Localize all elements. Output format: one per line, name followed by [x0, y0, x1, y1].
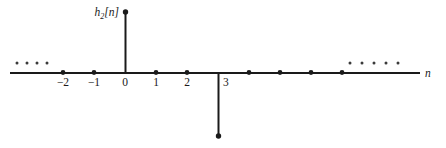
sample-dot: [154, 70, 159, 75]
sample-dot-n3-trough: [216, 133, 221, 138]
sample-dot: [340, 70, 345, 75]
sample-dot: [61, 70, 66, 75]
sample-dot: [247, 70, 252, 75]
tick-label-minus2: −2: [57, 76, 69, 88]
ellipsis-dot: [373, 62, 376, 65]
ellipsis-dot: [397, 62, 400, 65]
ellipsis-dot: [16, 62, 19, 65]
plot-canvas: −2 −1 0 1 2 3 h2[n] n: [0, 0, 446, 148]
tick-label-minus1: −1: [88, 76, 100, 88]
ellipsis-dot: [361, 62, 364, 65]
left-ellipsis: [16, 62, 49, 65]
axis-name-label: n: [425, 67, 431, 79]
signal-plot-figure: −2 −1 0 1 2 3 h2[n] n: [0, 0, 446, 148]
signal-name-argument: [n]: [104, 6, 119, 18]
tick-label-1: 1: [153, 76, 159, 88]
signal-name-label: h2[n]: [95, 6, 119, 21]
sample-dot: [185, 70, 190, 75]
ellipsis-dot: [349, 62, 352, 65]
tick-label-2: 2: [184, 76, 190, 88]
sample-dot: [309, 70, 314, 75]
sample-dot-n0-peak: [123, 9, 128, 14]
tick-label-0: 0: [122, 76, 128, 88]
tick-label-3: 3: [223, 76, 229, 88]
sample-dot: [92, 70, 97, 75]
sample-dot: [278, 70, 283, 75]
ellipsis-dot: [26, 62, 29, 65]
ellipsis-dot: [46, 62, 49, 65]
right-ellipsis: [349, 62, 400, 65]
ellipsis-dot: [36, 62, 39, 65]
tick-labels: −2 −1 0 1 2 3: [57, 76, 229, 88]
ellipsis-dot: [385, 62, 388, 65]
